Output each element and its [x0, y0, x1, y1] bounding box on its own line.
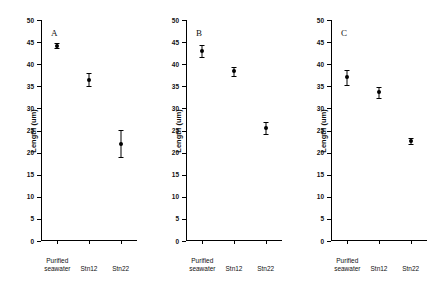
error-bar-cap-lower — [87, 86, 92, 87]
y-axis-line — [331, 20, 332, 241]
error-bar-cap-lower — [232, 76, 237, 77]
y-axis-tick: 20 — [327, 153, 331, 154]
panel-b: 05101520253035404550Purified seawaterStn… — [145, 0, 290, 282]
x-axis-category-label: Stn22 — [91, 265, 151, 273]
x-axis-category-label: Stn22 — [236, 265, 296, 273]
y-axis-tick: 5 — [182, 219, 186, 220]
plot-area: 05101520253035404550Purified seawaterStn… — [331, 20, 427, 241]
y-axis-tick-label: 50 — [27, 17, 34, 24]
panel-letter-b: B — [196, 28, 202, 38]
y-axis-tick-label: 0 — [175, 238, 179, 245]
data-point — [377, 90, 381, 94]
panel-c: 05101520253035404550Purified seawaterStn… — [290, 0, 435, 282]
y-axis-tick-label: 15 — [27, 172, 34, 179]
y-axis-tick: 0 — [327, 241, 331, 242]
x-axis-tick — [57, 241, 58, 244]
y-axis-tick: 50 — [327, 20, 331, 21]
y-axis-tick-label: 40 — [27, 61, 34, 68]
y-axis-tick: 5 — [327, 219, 331, 220]
y-axis-tick-label: 45 — [317, 39, 324, 46]
y-axis-tick-label: 10 — [27, 194, 34, 201]
y-axis-tick: 45 — [37, 42, 41, 43]
y-axis-tick: 35 — [182, 86, 186, 87]
error-bar-cap-lower — [377, 98, 382, 99]
y-axis-tick: 35 — [37, 86, 41, 87]
y-axis-line — [186, 20, 187, 241]
y-axis-tick-label: 45 — [172, 39, 179, 46]
y-axis-tick-label: 5 — [175, 216, 179, 223]
y-axis-title: Length (um) — [174, 109, 183, 152]
y-axis-tick-label: 5 — [320, 216, 324, 223]
y-axis-tick: 15 — [327, 175, 331, 176]
y-axis-tick: 0 — [37, 241, 41, 242]
error-bar-cap-lower — [345, 85, 350, 86]
y-axis-tick: 20 — [37, 153, 41, 154]
y-axis-tick-label: 10 — [317, 194, 324, 201]
data-point — [119, 142, 123, 146]
y-axis-tick: 40 — [37, 64, 41, 65]
error-bar-cap-upper — [87, 73, 92, 74]
error-bar-cap-upper — [263, 122, 268, 123]
data-point — [409, 139, 413, 143]
y-axis-tick: 10 — [37, 197, 41, 198]
y-axis-tick-label: 15 — [317, 172, 324, 179]
error-bar-cap-lower — [118, 157, 123, 158]
y-axis-tick-label: 0 — [30, 238, 34, 245]
x-axis-tick — [202, 241, 203, 244]
y-axis-tick-label: 35 — [172, 84, 179, 91]
y-axis-tick-label: 40 — [317, 61, 324, 68]
error-bar-cap-upper — [377, 87, 382, 88]
x-axis-tick — [89, 241, 90, 244]
y-axis-tick-label: 40 — [172, 61, 179, 68]
data-point — [232, 69, 236, 73]
plot-area: 05101520253035404550Purified seawaterStn… — [186, 20, 282, 241]
y-axis-line — [41, 20, 42, 241]
y-axis-tick: 10 — [182, 197, 186, 198]
data-point — [264, 126, 268, 130]
y-axis-tick: 10 — [327, 197, 331, 198]
y-axis-tick: 0 — [182, 241, 186, 242]
x-axis-tick — [121, 241, 122, 244]
y-axis-tick: 40 — [327, 64, 331, 65]
y-axis-tick: 40 — [182, 64, 186, 65]
y-axis-tick-label: 15 — [172, 172, 179, 179]
y-axis-tick-label: 35 — [317, 84, 324, 91]
error-bar-cap-lower — [200, 57, 205, 58]
y-axis-tick: 45 — [182, 42, 186, 43]
panel-a: 05101520253035404550Purified seawaterStn… — [0, 0, 145, 282]
y-axis-title: Length (um) — [319, 109, 328, 152]
y-axis-tick-label: 35 — [27, 84, 34, 91]
data-point — [345, 75, 349, 79]
panel-letter-c: C — [341, 28, 347, 38]
y-axis-tick: 35 — [327, 86, 331, 87]
data-point — [87, 78, 91, 82]
y-axis-tick: 50 — [37, 20, 41, 21]
y-axis-title: Length (um) — [29, 109, 38, 152]
y-axis-tick-label: 50 — [172, 17, 179, 24]
y-axis-tick: 15 — [37, 175, 41, 176]
plot-area: 05101520253035404550Purified seawaterStn… — [41, 20, 137, 241]
data-point — [200, 49, 204, 53]
x-axis-tick — [266, 241, 267, 244]
x-axis-tick — [347, 241, 348, 244]
y-axis-tick-label: 45 — [27, 39, 34, 46]
error-bar-cap-lower — [263, 134, 268, 135]
error-bar-cap-upper — [232, 67, 237, 68]
y-axis-tick: 45 — [327, 42, 331, 43]
error-bar-cap-upper — [118, 130, 123, 131]
error-bar-cap-lower — [55, 48, 60, 49]
error-bar-cap-upper — [200, 45, 205, 46]
figure-container: 05101520253035404550Purified seawaterStn… — [0, 0, 435, 282]
y-axis-tick: 50 — [182, 20, 186, 21]
x-axis-tick — [379, 241, 380, 244]
y-axis-tick: 5 — [37, 219, 41, 220]
y-axis-tick-label: 5 — [30, 216, 34, 223]
error-bar-cap-lower — [408, 144, 413, 145]
error-bar-cap-upper — [345, 70, 350, 71]
panel-letter-a: A — [51, 28, 58, 38]
x-axis-tick — [411, 241, 412, 244]
y-axis-tick-label: 10 — [172, 194, 179, 201]
x-axis-category-label: Stn22 — [381, 265, 435, 273]
x-axis-tick — [234, 241, 235, 244]
y-axis-tick-label: 0 — [320, 238, 324, 245]
